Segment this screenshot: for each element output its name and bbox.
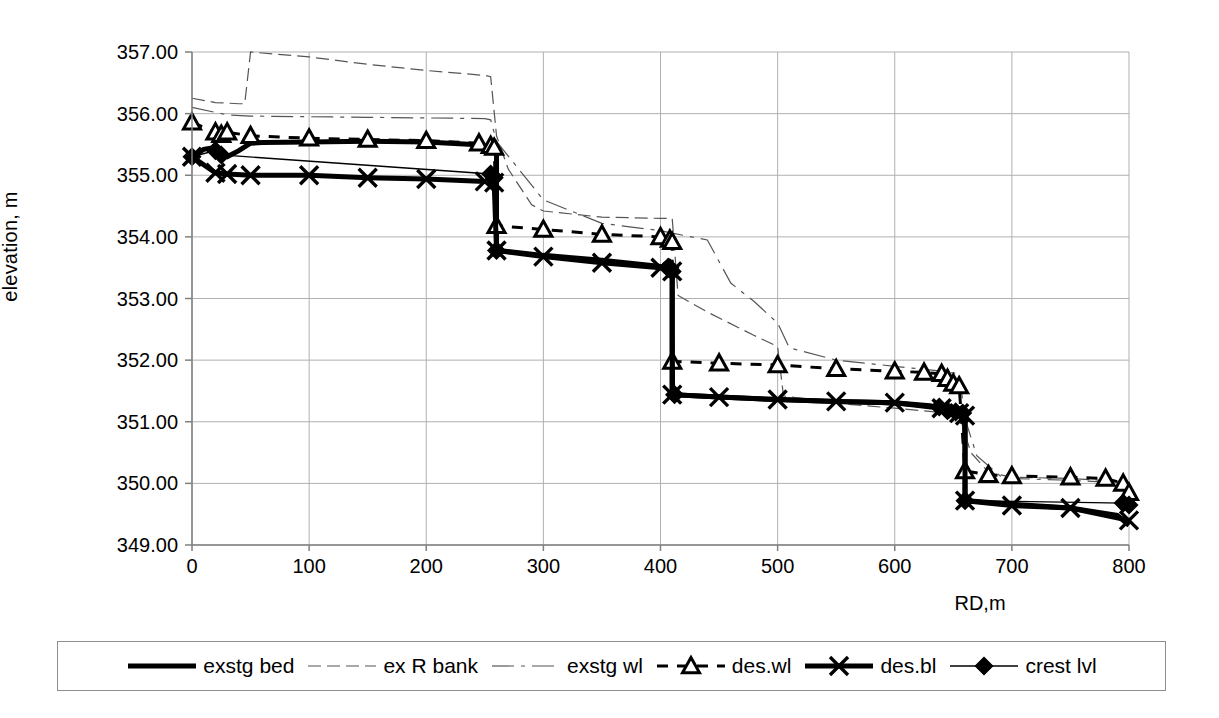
- data-point-triangle: [682, 658, 699, 673]
- y-axis-title: elevation, m: [0, 87, 22, 407]
- legend-item-exstg-wl[interactable]: exstg wl: [484, 654, 649, 678]
- data-point-triangle: [769, 357, 786, 372]
- legend-item-label: exstg wl: [567, 654, 643, 678]
- y-tick-label: 357.00: [58, 42, 178, 62]
- data-point-triangle: [980, 466, 997, 481]
- legend-marker-icon: [803, 655, 875, 677]
- x-tick-label: 600: [855, 555, 935, 578]
- x-axis-title: RD,m: [880, 592, 1080, 615]
- y-tick-label: 352.00: [58, 350, 178, 370]
- x-tick-label: 300: [503, 555, 583, 578]
- legend-marker-icon: [306, 655, 378, 677]
- legend-item-ex-r-bank[interactable]: ex R bank: [300, 654, 484, 678]
- data-point-triangle: [359, 131, 376, 146]
- data-point-triangle: [1097, 470, 1114, 485]
- x-tick-label: 500: [738, 555, 818, 578]
- y-tick-label: 351.00: [58, 412, 178, 432]
- legend-item-label: des.bl: [880, 654, 936, 678]
- data-point-triangle: [1003, 467, 1020, 482]
- data-point-diamond: [976, 658, 993, 675]
- x-tick-label: 700: [972, 555, 1052, 578]
- data-point-triangle: [711, 355, 728, 370]
- legend-item-label: des.wl: [732, 654, 792, 678]
- chart-area: elevation, m RD,m 349.00350.00351.00352.…: [0, 0, 1219, 628]
- legend-item-des-wl[interactable]: des.wl: [649, 654, 798, 678]
- legend-marker-icon: [490, 655, 562, 677]
- legend-swatch-cross: [803, 655, 875, 677]
- x-tick-label: 100: [269, 555, 349, 578]
- y-tick-label: 356.00: [58, 104, 178, 124]
- legend-item-label: ex R bank: [383, 654, 478, 678]
- legend-marker-icon: [126, 655, 198, 677]
- y-tick-label: 349.00: [58, 535, 178, 555]
- x-tick-label: 800: [1089, 555, 1169, 578]
- legend-swatch-diamond: [948, 655, 1020, 677]
- legend-item-des-bl[interactable]: des.bl: [797, 654, 942, 678]
- legend-swatch-none: [306, 655, 378, 677]
- legend-marker-icon: [655, 655, 727, 677]
- legend-marker-icon: [948, 655, 1020, 677]
- data-point-triangle: [301, 130, 318, 145]
- y-tick-label: 355.00: [58, 165, 178, 185]
- plot-area: 349.00350.00351.00352.00353.00354.00355.…: [192, 52, 1129, 545]
- legend-swatch-none: [490, 655, 562, 677]
- legend-item-label: crest lvl: [1025, 654, 1096, 678]
- chart-screenshot: elevation, m RD,m 349.00350.00351.00352.…: [0, 0, 1219, 718]
- legend-item-label: exstg bed: [203, 654, 294, 678]
- plot-canvas: [192, 52, 1129, 545]
- data-point-triangle: [535, 221, 552, 236]
- chart-legend: exstg bedex R bankexstg wldes.wldes.blcr…: [57, 641, 1166, 691]
- x-tick-label: 200: [386, 555, 466, 578]
- x-tick-label: 0: [152, 555, 232, 578]
- data-point-triangle: [418, 132, 435, 147]
- legend-swatch-triangle: [655, 655, 727, 677]
- data-point-triangle: [886, 363, 903, 378]
- y-tick-label: 350.00: [58, 473, 178, 493]
- data-point-triangle: [828, 360, 845, 375]
- y-tick-label: 354.00: [58, 227, 178, 247]
- data-point-triangle: [916, 364, 933, 379]
- data-point-triangle: [593, 226, 610, 241]
- legend-item-exstg-bed[interactable]: exstg bed: [120, 654, 300, 678]
- data-point-triangle: [242, 127, 259, 142]
- x-tick-label: 400: [621, 555, 701, 578]
- data-point-triangle: [1062, 469, 1079, 484]
- legend-swatch-none: [126, 655, 198, 677]
- y-tick-label: 353.00: [58, 289, 178, 309]
- legend-item-crest-lvl[interactable]: crest lvl: [942, 654, 1102, 678]
